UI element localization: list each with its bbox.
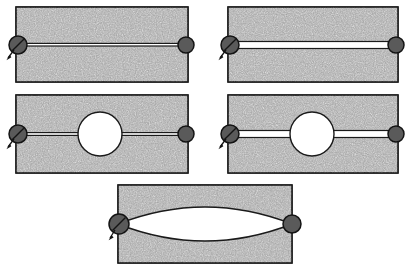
crack-thin-right	[118, 133, 184, 136]
load-arrow-head-icon	[6, 55, 11, 60]
slit-thick-right	[330, 131, 395, 138]
crack-thin	[20, 43, 184, 46]
figure-root	[0, 0, 413, 272]
panel-center-slit-thick	[218, 7, 404, 82]
slit-thick	[231, 42, 395, 49]
load-arrow-head-icon	[218, 144, 223, 149]
panel-hole-with-thick-slits	[218, 95, 404, 173]
load-arrow-head-icon	[218, 55, 223, 60]
roller-pin-icon	[178, 37, 194, 53]
slit-thick-left	[231, 131, 293, 138]
crack-thin-left	[20, 133, 82, 136]
specimen-figure-svg	[0, 0, 413, 272]
panel-lenticular-cavity	[109, 185, 301, 263]
roller-pin-icon	[178, 126, 194, 142]
circular-hole	[290, 112, 334, 156]
circular-hole	[78, 112, 122, 156]
roller-pin-icon	[283, 215, 301, 233]
roller-pin-icon	[388, 126, 404, 142]
panel-hole-with-thin-cracks	[6, 95, 194, 173]
roller-pin-icon	[388, 37, 404, 53]
panel-center-crack-thin	[6, 7, 194, 82]
load-arrow-head-icon	[6, 144, 11, 149]
